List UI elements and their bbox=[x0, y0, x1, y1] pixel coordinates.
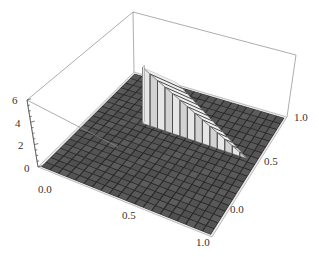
z-tick-label: 2 bbox=[18, 139, 24, 151]
x-tick-label: 1.0 bbox=[196, 236, 210, 248]
y-tick-label: 0.5 bbox=[264, 155, 278, 167]
z-axis-ticks bbox=[27, 99, 42, 167]
z-tick-label: 0 bbox=[24, 162, 30, 174]
z-tick-label: 6 bbox=[12, 94, 18, 106]
z-tick-label: 4 bbox=[15, 117, 21, 129]
x-tick-label: 0.0 bbox=[38, 183, 52, 195]
y-tick-label: 1.0 bbox=[294, 111, 308, 123]
x-tick-label: 0.5 bbox=[122, 209, 136, 221]
surface-plot-3d: 6 4 2 0 0.0 0.5 1.0 0.0 0.5 1.0 bbox=[0, 0, 319, 257]
y-tick-label: 0.0 bbox=[230, 203, 244, 215]
